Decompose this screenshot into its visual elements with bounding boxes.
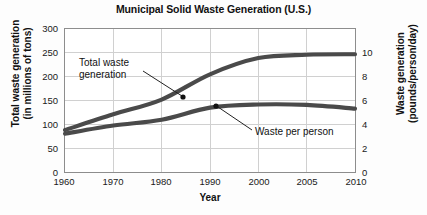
chart-title: Municipal Solid Waste Generation (U.S.) [0,3,427,15]
chart-container: Municipal Solid Waste Generation (U.S.) … [0,0,427,215]
x-axis-tick-1960: 1960 [41,176,87,187]
y-axis-left-title-line1: Total waste generation [10,15,22,133]
y-axis-left-tick-50: 50 [30,143,58,154]
y-axis-left-tick-200: 200 [30,71,58,82]
annotation-total-line1: Total waste [79,57,129,69]
x-axis-tick-2000: 2000 [236,176,282,187]
x-axis-title: Year [64,192,356,204]
x-axis-tick-1980: 1980 [138,176,184,187]
series-curves [65,29,355,172]
plot-area [64,28,356,173]
x-axis-tick-2010: 2010 [333,176,379,187]
y-axis-left-title-line2: (in millions of tons) [21,15,33,133]
y-axis-left-tick-300: 300 [30,23,58,34]
x-axis-tick-2005: 2005 [284,176,330,187]
x-axis-tick-1970: 1970 [90,176,136,187]
y-axis-right-title-line2: (pounds/person/day) [406,15,418,133]
y-axis-left-tick-100: 100 [30,119,58,130]
y-axis-left-tick-250: 250 [30,47,58,58]
y-axis-left-tick-150: 150 [30,95,58,106]
y-axis-right-tick-6: 6 [362,95,390,106]
y-axis-right-title-line1: Waste generation [395,15,407,133]
y-axis-right-tick-8: 8 [362,71,390,82]
y-axis-right-title: Waste generation (pounds/person/day) [395,15,418,133]
x-axis-tick-1990: 1990 [187,176,233,187]
annotation-total-line2: generation [79,69,129,81]
annotation-total-waste-generation: Total waste generation [79,57,129,80]
y-axis-right-tick-2: 2 [362,143,390,154]
annotation-waste-per-person: Waste per person [255,126,334,138]
y-axis-right-tick-4: 4 [362,119,390,130]
y-axis-right-tick-10: 10 [362,47,390,58]
y-axis-left-title: Total waste generation (in millions of t… [10,15,33,133]
